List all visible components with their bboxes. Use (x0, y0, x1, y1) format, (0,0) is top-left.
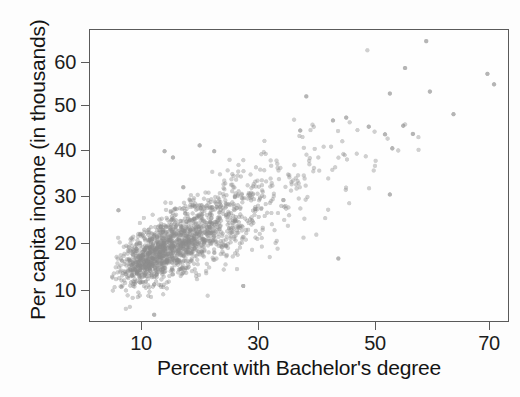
x-axis-tick (258, 322, 259, 330)
x-axis-tick (141, 322, 142, 330)
x-axis-tick-label: 10 (118, 332, 164, 355)
x-axis-tick-label: 30 (235, 332, 281, 355)
y-axis-tick (81, 150, 89, 151)
x-axis-tick-label: 50 (352, 332, 398, 355)
y-axis-tick (81, 62, 89, 63)
y-axis-tick-label: 30 (1, 185, 76, 208)
y-axis-tick (81, 105, 89, 106)
y-axis-tick (81, 196, 89, 197)
y-axis-tick (81, 290, 89, 291)
y-axis-tick-label: 40 (1, 139, 76, 162)
y-axis-tick-label: 10 (1, 279, 76, 302)
plot-area (89, 29, 509, 322)
x-axis-tick (489, 322, 490, 330)
y-axis-tick-label: 50 (1, 94, 76, 117)
scatter-plot-figure: Per capita income (in thousands) 60 50 4… (0, 0, 520, 397)
x-axis-tick (375, 322, 376, 330)
x-axis-title: Percent with Bachelor's degree (89, 356, 509, 380)
scatter-points-canvas (90, 30, 508, 321)
y-axis-tick-label: 60 (1, 51, 76, 74)
y-axis-tick (81, 243, 89, 244)
x-axis-tick-label: 70 (466, 332, 512, 355)
y-axis-tick-label: 20 (1, 232, 76, 255)
